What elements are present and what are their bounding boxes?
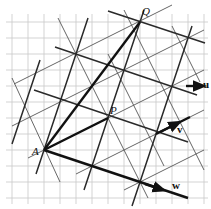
point-label-P: P [109,104,117,116]
lattice-diagram: Q P A u v w [0,0,211,209]
vector-w-line [44,150,188,198]
background-grid [6,14,208,204]
vector-w-arrow-icon [145,184,160,189]
vector-label-v: v [177,123,183,135]
vector-label-w: w [172,179,180,191]
lattice-lines-steep [12,10,192,206]
vector-v-arrow-icon [160,124,176,132]
vector-label-u: u [203,78,209,90]
point-label-Q: Q [142,5,150,17]
point-label-A: A [31,145,39,157]
